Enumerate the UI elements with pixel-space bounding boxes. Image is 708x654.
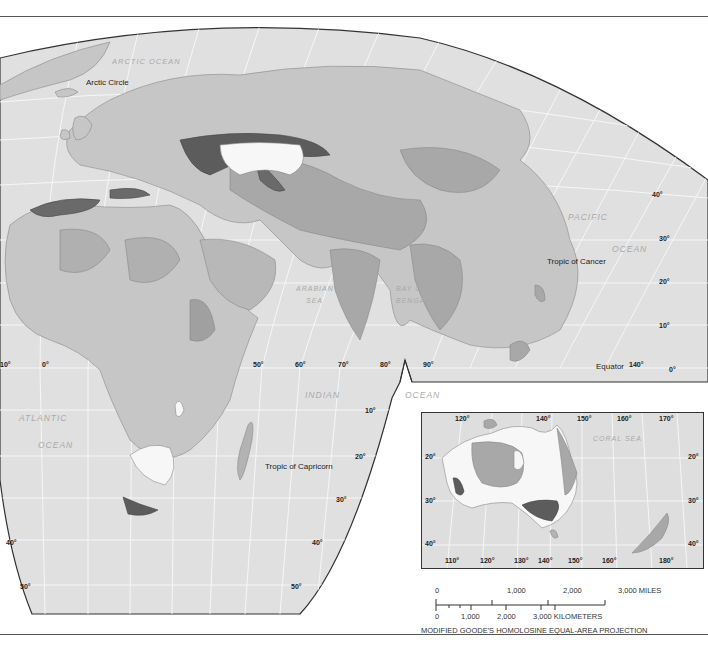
lat-label: 30° — [336, 496, 347, 503]
scale-bar: 0 1,000 2,000 3,000 MILES 0 1,000 2,000 … — [425, 580, 705, 640]
lat-label: 10° — [365, 407, 376, 414]
lon-label: 140° — [629, 361, 643, 368]
lat-label: 20° — [355, 453, 366, 460]
indian-ocean-label-1: INDIAN — [305, 390, 340, 400]
arctic-circle-label: Arctic Circle — [86, 78, 129, 87]
scale-miles-1000: 1,000 — [507, 586, 526, 595]
inset-top-lon: 150° — [577, 415, 591, 422]
lat-label: 10° — [659, 322, 670, 329]
scale-miles-2000: 2,000 — [563, 586, 582, 595]
lon-label: 10° — [0, 361, 11, 368]
lat-label: 40° — [312, 539, 323, 546]
inset-left-lat: 20° — [425, 453, 436, 460]
tropic-of-cancer-label: Tropic of Cancer — [547, 257, 606, 266]
tropic-of-capricorn-label: Tropic of Capricorn — [265, 462, 333, 471]
australia-inset: CORAL SEA 120° 140° 150° 160° 170° 20° 3… — [421, 412, 704, 569]
coral-sea-label: CORAL SEA — [593, 435, 642, 442]
inset-bottom-lon: 180° — [659, 557, 673, 564]
projection-note: MODIFIED GOODE'S HOMOLOSINE EQUAL-AREA P… — [421, 626, 647, 635]
scale-miles-3000: 3,000 MILES — [618, 586, 661, 595]
inset-right-lat: 40° — [688, 540, 699, 547]
inset-bottom-lon: 110° — [445, 557, 459, 564]
equator-label: Equator — [596, 362, 624, 371]
inset-bottom-lon: 140° — [538, 557, 552, 564]
atlantic-ocean-label-1: ATLANTIC — [19, 413, 67, 423]
arctic-ocean-label: ARCTIC OCEAN — [112, 57, 181, 66]
scale-bar-graphic — [425, 597, 705, 613]
inset-bottom-lon: 160° — [602, 557, 616, 564]
inset-bottom-lon: 130° — [514, 557, 528, 564]
inset-top-lon: 160° — [617, 415, 631, 422]
inset-top-lon: 170° — [659, 415, 673, 422]
inset-right-lat: 30° — [688, 497, 699, 504]
atlantic-ocean-label-2: OCEAN — [38, 440, 73, 450]
lat-label: 40° — [6, 539, 17, 546]
lon-label: 0° — [42, 361, 49, 368]
lat-label: 20° — [659, 278, 670, 285]
lat-label: 0° — [669, 366, 676, 373]
arabian-sea-label-1: ARABIAN — [296, 285, 334, 292]
inset-top-lon: 120° — [455, 415, 469, 422]
arabian-sea-label-2: SEA — [306, 297, 323, 304]
pacific-ocean-label-2: OCEAN — [612, 244, 647, 254]
scale-km-0: 0 — [435, 612, 439, 621]
inset-left-lat: 30° — [425, 497, 436, 504]
lat-label: 30° — [659, 235, 670, 242]
inset-top-lon: 140° — [536, 415, 550, 422]
scale-km-3000: 3,000 KILOMETERS — [533, 612, 602, 621]
light-region-central-asia — [220, 143, 303, 176]
lat-label: 50° — [20, 583, 31, 590]
indian-ocean-label-2: OCEAN — [405, 390, 440, 400]
lon-label: 60° — [295, 361, 306, 368]
scale-miles-0: 0 — [435, 586, 439, 595]
lon-label: 70° — [338, 361, 349, 368]
lon-label: 90° — [423, 361, 434, 368]
lon-label: 80° — [380, 361, 391, 368]
bay-of-bengal-label-2: BENGAL — [396, 297, 430, 304]
inset-bottom-lon: 120° — [480, 557, 494, 564]
lat-label: 50° — [291, 583, 302, 590]
pacific-ocean-label-1: PACIFIC — [568, 212, 608, 222]
scale-km-2000: 2,000 — [497, 612, 516, 621]
scale-km-1000: 1,000 — [461, 612, 480, 621]
bay-of-bengal-label-1: BAY OF — [396, 285, 427, 292]
inset-left-lat: 40° — [425, 540, 436, 547]
inset-right-lat: 20° — [688, 453, 699, 460]
lat-label: 40° — [652, 191, 663, 198]
inset-bottom-lon: 150° — [568, 557, 582, 564]
lon-label: 50° — [253, 361, 264, 368]
australia-inset-map — [422, 413, 703, 568]
